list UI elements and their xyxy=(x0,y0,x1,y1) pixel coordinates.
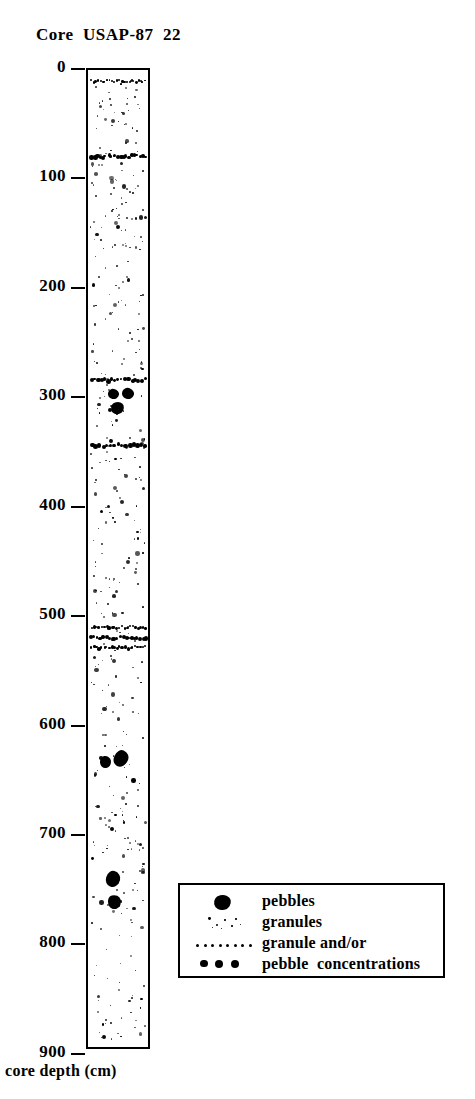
granule-mark xyxy=(139,349,140,350)
granule-mark xyxy=(101,164,103,166)
granule-mark xyxy=(111,812,113,814)
granule-mark xyxy=(129,437,131,439)
granule-dot-icon xyxy=(224,919,226,921)
granule-mark xyxy=(139,843,142,846)
granule-mark xyxy=(139,783,140,784)
granule-mark xyxy=(120,1036,122,1038)
granule-mark xyxy=(129,842,131,844)
granule-mark xyxy=(118,214,120,216)
granule-mark xyxy=(134,538,136,540)
granule-mark xyxy=(131,922,132,923)
granule-mark xyxy=(103,109,104,110)
axis-tick-label: 900 xyxy=(39,1042,66,1062)
granule-mark xyxy=(136,816,138,818)
granule-mark xyxy=(106,437,108,439)
granule-mark xyxy=(142,170,143,171)
concentration-dot xyxy=(132,80,134,82)
granule-mark xyxy=(97,770,99,772)
granule-mark xyxy=(121,363,123,365)
granule-mark xyxy=(104,118,107,121)
concentration-dot xyxy=(141,81,143,83)
dotted-line-icon xyxy=(188,933,256,955)
granule-mark xyxy=(104,817,106,819)
granule-mark xyxy=(115,419,118,422)
granule-mark xyxy=(126,734,127,735)
granule-mark xyxy=(137,583,138,584)
granule-mark xyxy=(144,216,147,219)
granule-mark xyxy=(124,838,126,840)
granule-mark xyxy=(113,580,114,581)
granule-mark xyxy=(121,203,123,205)
granule-mark xyxy=(121,913,122,914)
axis-tick-label: 600 xyxy=(39,714,66,734)
granule-mark xyxy=(114,458,116,460)
granule-mark xyxy=(96,128,97,129)
granule-mark xyxy=(121,612,124,615)
granule-mark xyxy=(135,478,137,480)
granule-mark xyxy=(110,1005,111,1006)
granule-mark xyxy=(93,656,96,659)
axis-label: core depth (cm) xyxy=(5,1062,117,1080)
granule-mark xyxy=(140,362,143,365)
granule-mark xyxy=(114,244,116,246)
granule-mark xyxy=(141,395,142,396)
concentration-dot xyxy=(109,79,111,81)
core-log-column xyxy=(86,68,150,1049)
granule-mark xyxy=(121,300,123,302)
granule-mark xyxy=(104,396,105,397)
granule-mark xyxy=(120,500,124,504)
granule-mark xyxy=(99,102,100,103)
granule-mark xyxy=(125,245,127,247)
granule-mark xyxy=(102,1035,106,1039)
granule-mark xyxy=(107,845,108,846)
concentration-band xyxy=(88,78,148,84)
granule-mark xyxy=(116,630,118,632)
granule-mark xyxy=(131,697,134,700)
granule-mark xyxy=(139,477,140,478)
legend-item-label: pebbles xyxy=(262,892,315,910)
granule-mark xyxy=(98,664,99,665)
granule-mark xyxy=(93,184,94,185)
granule-mark xyxy=(105,215,107,217)
granule-mark xyxy=(132,192,134,194)
granule-dot-icon xyxy=(240,924,241,925)
granule-mark xyxy=(112,711,114,713)
granule-mark xyxy=(119,582,120,583)
granule-mark xyxy=(95,256,97,258)
granule-mark xyxy=(115,675,117,677)
axis-tick-label: 300 xyxy=(39,385,66,405)
granule-mark xyxy=(137,185,139,187)
granule-mark xyxy=(129,332,131,334)
granule-mark xyxy=(139,466,141,468)
granule-mark xyxy=(121,197,123,199)
granule-mark xyxy=(93,305,95,307)
granule-mark xyxy=(134,571,137,574)
granule-mark xyxy=(111,1038,112,1039)
granule-mark xyxy=(139,108,140,109)
granule-mark xyxy=(113,303,117,307)
concentration-dot xyxy=(144,627,146,629)
granule-mark xyxy=(137,890,138,891)
granule-mark xyxy=(99,105,102,108)
granule-mark xyxy=(140,926,144,930)
concentration-dot xyxy=(131,646,133,648)
granule-mark xyxy=(98,276,100,278)
granule-mark xyxy=(144,1025,146,1027)
granule-mark xyxy=(94,482,96,484)
granule-mark xyxy=(132,995,133,996)
granule-mark xyxy=(94,668,99,673)
pebble-mark xyxy=(112,748,132,769)
granule-mark xyxy=(116,265,118,267)
granule-mark xyxy=(112,312,114,314)
granule-mark xyxy=(123,821,125,823)
granule-mark xyxy=(114,650,115,651)
axis-tick-mark xyxy=(71,287,85,289)
granule-mark xyxy=(131,338,133,340)
granule-mark xyxy=(112,246,114,248)
granule-mark xyxy=(132,907,136,911)
granule-mark xyxy=(109,461,110,462)
granule-mark xyxy=(135,970,137,972)
granule-mark xyxy=(93,841,94,842)
granule-mark xyxy=(129,247,131,249)
granule-mark xyxy=(100,591,102,593)
